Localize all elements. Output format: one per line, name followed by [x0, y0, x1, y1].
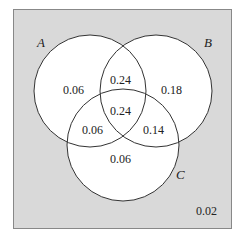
region-ab-only: 0.24	[110, 73, 131, 87]
set-label-b: B	[204, 35, 212, 50]
venn-diagram: A B C 0.06 0.24 0.18 0.24 0.06 0.14 0.06…	[0, 0, 240, 238]
region-c-only: 0.06	[110, 152, 131, 166]
set-label-c: C	[176, 167, 185, 182]
region-a-only: 0.06	[63, 83, 84, 97]
set-label-a: A	[36, 35, 45, 50]
region-ac-only: 0.06	[82, 123, 103, 137]
region-outside: 0.02	[196, 204, 217, 218]
region-b-only: 0.18	[161, 83, 182, 97]
region-bc-only: 0.14	[143, 123, 164, 137]
region-abc: 0.24	[110, 104, 131, 118]
